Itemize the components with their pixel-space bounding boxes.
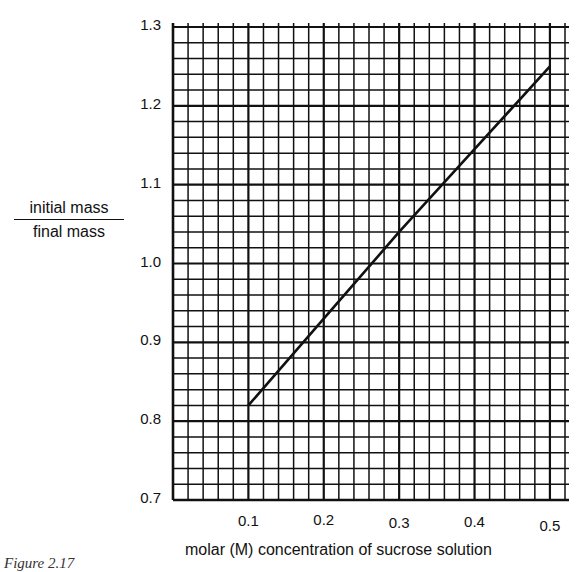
x-tick-label: 0.4	[455, 513, 495, 530]
y-tick-label: 1.2	[121, 95, 161, 112]
figure-caption: Figure 2.17	[4, 555, 74, 572]
y-axis-title: initial mass final mass	[14, 199, 124, 241]
y-axis-title-numerator: initial mass	[14, 199, 124, 220]
y-axis-title-denominator: final mass	[14, 220, 124, 241]
y-tick-label: 1.3	[121, 16, 161, 33]
x-tick-label: 0.5	[530, 517, 570, 534]
y-tick-label: 0.9	[121, 331, 161, 348]
y-tick-label: 1.1	[121, 174, 161, 191]
x-axis-title: molar (M) concentration of sucrose solut…	[185, 541, 492, 559]
x-tick-label: 0.2	[304, 511, 344, 528]
y-tick-label: 1.0	[121, 253, 161, 270]
x-tick-label: 0.3	[379, 514, 419, 531]
y-tick-label: 0.8	[121, 410, 161, 427]
x-tick-label: 0.1	[228, 512, 268, 529]
y-tick-label: 0.7	[121, 489, 161, 506]
